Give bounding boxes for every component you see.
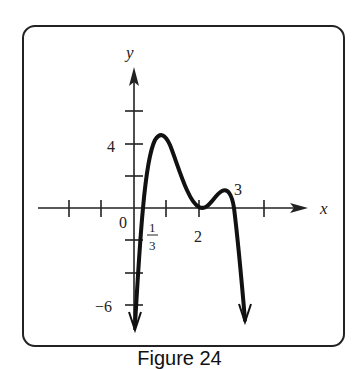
- figure-caption: Figure 24: [0, 348, 359, 368]
- frac-numerator: 1: [149, 220, 156, 235]
- x-axis-label: x: [319, 199, 328, 218]
- origin-label: 0: [119, 214, 127, 231]
- tick-label-3: 3: [234, 181, 242, 198]
- tick-label-neg6: −6: [95, 298, 112, 315]
- tick-label-2: 2: [194, 228, 202, 245]
- y-axis-label: y: [124, 43, 134, 62]
- frac-denominator: 3: [149, 238, 156, 253]
- tick-label-4: 4: [107, 138, 115, 155]
